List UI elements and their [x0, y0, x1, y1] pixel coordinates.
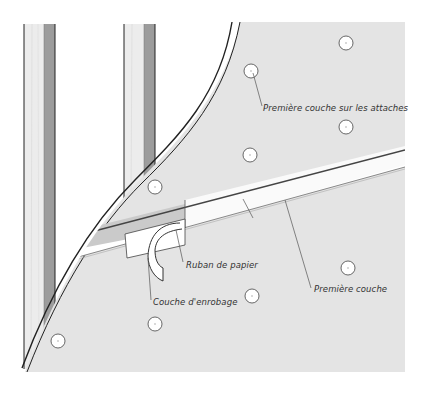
label-embedding-coat: Couche d'enrobage: [153, 297, 238, 307]
label-fasteners-first-coat: Première couche sur les attaches: [263, 103, 408, 113]
label-first-coat: Première couche: [314, 284, 387, 294]
drywall-taping-diagram: [0, 0, 429, 395]
label-paper-tape: Ruban de papier: [186, 260, 258, 270]
